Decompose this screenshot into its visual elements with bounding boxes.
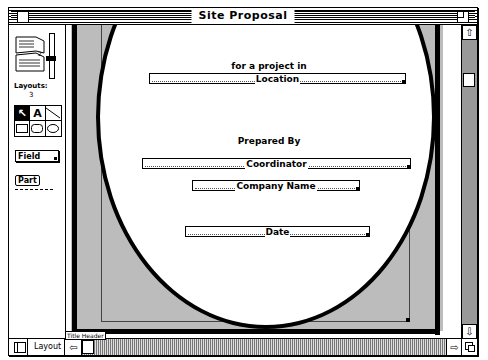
title-bar[interactable]: Site Proposal <box>9 8 477 25</box>
zoom-box-icon[interactable] <box>457 11 469 23</box>
rounded-rectangle-icon <box>31 124 43 133</box>
vertical-scrollbar[interactable]: ⇧ ⇩ <box>461 25 477 339</box>
site-proposal-window: Site Proposal 2 Layouts: 3 ↖ A <box>8 7 478 356</box>
layout-book-icon[interactable]: 2 <box>14 35 48 73</box>
rectangle-tool[interactable] <box>15 121 30 136</box>
part-label-title-header[interactable]: Title Header <box>65 331 106 340</box>
rounded-rectangle-tool[interactable] <box>30 121 45 136</box>
window-title: Site Proposal <box>192 9 295 23</box>
part-tool[interactable]: Part <box>15 175 53 187</box>
field-tool[interactable]: Field <box>15 150 59 162</box>
slider-knob[interactable] <box>46 56 56 61</box>
field-coordinator[interactable]: Coordinator <box>142 158 411 169</box>
page-border-right <box>435 25 440 335</box>
grow-box-icon[interactable] <box>461 339 477 355</box>
horizontal-scroll-thumb[interactable] <box>82 340 94 354</box>
scroll-down-arrow-icon[interactable]: ⇩ <box>462 324 477 339</box>
line-tool[interactable] <box>46 106 61 121</box>
vertical-scroll-thumb[interactable] <box>463 73 475 87</box>
text-icon: A <box>33 107 42 120</box>
layouts-label: Layouts: <box>14 82 48 90</box>
pointer-icon: ↖ <box>18 107 27 120</box>
heading-prepared-by[interactable]: Prepared By <box>174 136 364 146</box>
line-icon <box>46 106 60 120</box>
scroll-right-arrow-icon[interactable]: ⇨ <box>446 339 462 355</box>
rectangle-icon <box>16 124 28 133</box>
oval-tool[interactable] <box>46 121 61 136</box>
drawing-tools: ↖ A <box>14 105 62 137</box>
field-location[interactable]: Location <box>149 73 406 84</box>
text-tool[interactable]: A <box>30 106 45 121</box>
tool-palette: 2 Layouts: 3 ↖ A Field Part <box>9 25 66 339</box>
page-border-left <box>72 25 77 335</box>
mode-icon[interactable] <box>14 342 26 353</box>
layout-canvas[interactable]: for a project in Location Prepared By Co… <box>66 25 461 339</box>
layout-slider[interactable] <box>49 33 55 79</box>
oval-icon <box>47 124 59 133</box>
page-border-bottom <box>72 329 440 334</box>
status-bar: Layout ⇦ ⇨ <box>9 338 477 355</box>
mode-label[interactable]: Layout <box>27 339 65 355</box>
layouts-count: 3 <box>29 91 33 99</box>
heading-project[interactable]: for a project in <box>174 61 364 71</box>
scroll-up-arrow-icon[interactable]: ⇧ <box>462 25 477 40</box>
close-box-icon[interactable] <box>17 11 29 23</box>
field-company-name[interactable]: Company Name <box>192 180 360 191</box>
pointer-tool[interactable]: ↖ <box>15 106 30 121</box>
scroll-left-arrow-icon[interactable]: ⇦ <box>66 339 82 355</box>
field-date[interactable]: Date <box>185 226 370 237</box>
horizontal-scrollbar[interactable]: ⇦ ⇨ <box>66 339 462 355</box>
svg-text:2: 2 <box>38 50 42 57</box>
